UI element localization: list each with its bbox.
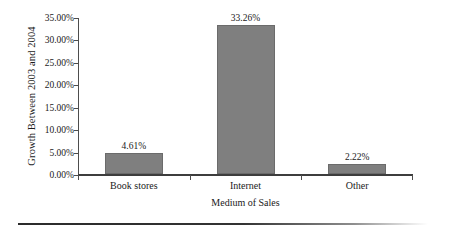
bar [217,25,275,174]
y-axis-tick-mark [74,108,78,109]
bottom-divider-rule [18,223,428,225]
y-axis-tick-label: 10.00% [30,125,74,135]
bar-value-label: 2.22% [317,152,397,163]
bar [105,153,163,174]
bar-value-label: 33.26% [206,13,286,24]
y-axis-tick-mark [74,40,78,41]
y-axis-tick-label: 5.00% [30,148,74,158]
bar-value-label: 4.61% [94,141,174,152]
y-axis-tick-label-group: 0.00%5.00%10.00%15.00%20.00%25.00%30.00%… [30,0,74,232]
y-axis-tick-mark [74,18,78,19]
y-axis-tick-mark [74,153,78,154]
y-axis-tick-mark [74,63,78,64]
bar-chart-figure: Growth Between 2003 and 2004 0.00%5.00%1… [0,0,457,232]
bar [328,164,386,174]
y-axis-tick-label: 15.00% [30,103,74,113]
y-axis-tick-label: 0.00% [30,170,74,180]
y-axis-tick-label: 25.00% [30,58,74,68]
plot-area: 4.61%33.26%2.22% [78,18,413,175]
x-axis-line [78,174,413,176]
y-axis-tick-label: 20.00% [30,80,74,90]
x-axis-category-label: Book stores [74,180,194,192]
x-axis-category-label: Other [297,180,417,192]
y-axis-tick-mark [74,130,78,131]
y-axis-line [78,18,79,175]
x-axis-title: Medium of Sales [78,197,413,209]
y-axis-tick-mark [74,85,78,86]
x-axis-category-label: Internet [186,180,306,192]
y-axis-tick-label: 35.00% [30,13,74,23]
y-axis-tick-label: 30.00% [30,35,74,45]
